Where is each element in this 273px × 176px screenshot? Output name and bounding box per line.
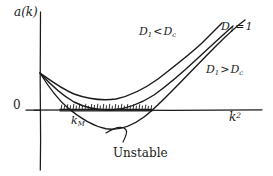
- figure-canvas: a(k) k2 0 kM D1<Dc D1=1 D1>Dc Unstable: [0, 0, 273, 176]
- x-axis-label: k2: [229, 110, 241, 124]
- k-mode-label: kM: [71, 114, 85, 128]
- y-axis-label: a(k): [14, 5, 38, 19]
- unstable-annotation-label: Unstable: [113, 146, 168, 160]
- curve-label-d1-equals-dc: D1=1: [221, 20, 252, 34]
- k-mode-subscript: M: [78, 120, 85, 128]
- origin-tick-label: 0: [13, 98, 21, 112]
- curve-d1-equals-dc: [40, 26, 233, 110]
- curve-label-d1-less-than-dc: D1<Dc: [139, 25, 176, 39]
- x-axis-label-exponent: 2: [236, 111, 241, 120]
- k-mode-base: k: [71, 114, 78, 127]
- curve-label-d1-greater-than-dc: D1>Dc: [206, 63, 243, 77]
